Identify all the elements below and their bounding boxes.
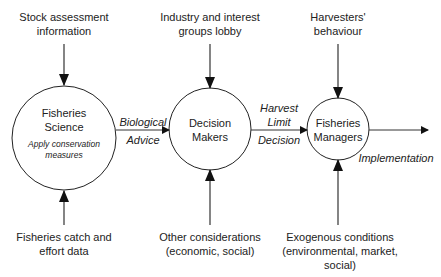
input-industry-label: Industry and interestgroups lobby xyxy=(148,10,272,38)
input-stock-label: Stock assessmentinformation xyxy=(4,10,124,38)
input-other-label: Other considerations(economic, social) xyxy=(148,230,272,258)
science-node-label: FisheriesScience xyxy=(14,106,114,134)
edge-harvest-line1: Harvest xyxy=(251,101,307,115)
science-circle xyxy=(12,86,116,190)
decision-node-label: DecisionMakers xyxy=(170,116,250,144)
managers-node-label: FisheriesManagers xyxy=(308,116,368,144)
edge-harvest-line2: Limit xyxy=(251,115,307,129)
edge-bio-advice-line1: Biological xyxy=(116,115,170,129)
edge-harvest-line3: Decision xyxy=(251,133,307,147)
input-catch-label: Fisheries catch andeffort data xyxy=(0,230,128,258)
input-exogenous-label: Exogenous conditions(environmental, mark… xyxy=(278,230,402,272)
science-node-sublabel: Apply conservationmeasures xyxy=(14,139,114,161)
input-harvesters-label: Harvesters'behaviour xyxy=(298,10,378,38)
edge-implementation: Implementation xyxy=(354,151,438,165)
edge-bio-advice-line2: Advice xyxy=(116,133,170,147)
